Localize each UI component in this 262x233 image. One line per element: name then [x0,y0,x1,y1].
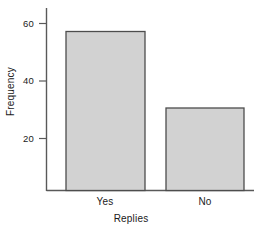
x-tick-label-yes: Yes [75,196,135,207]
bar-no[interactable] [166,108,244,191]
x-axis-title: Replies [0,213,262,224]
x-tick-label-no: No [175,196,235,207]
y-axis-title: Frequency [5,60,16,124]
y-tick-label-60: 60 [8,18,34,29]
bar-yes[interactable] [66,32,145,191]
bar-chart: 60 40 20 Yes No Frequency Replies [0,0,262,233]
y-tick-label-20: 20 [8,133,34,144]
